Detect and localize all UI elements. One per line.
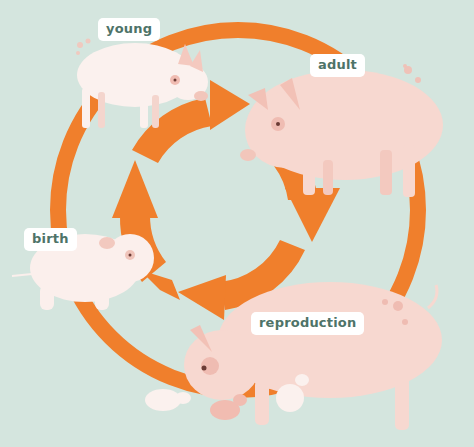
piglet-white-2 <box>276 384 304 412</box>
stage-label-young: young <box>98 18 160 41</box>
adult-pig-illustration <box>240 64 443 197</box>
sow-illustration <box>145 282 442 430</box>
stage-label-birth: birth <box>24 228 77 251</box>
arrowhead-up-icon <box>112 160 158 218</box>
arrowhead-right-icon <box>210 80 250 130</box>
diagram-canvas <box>0 0 474 447</box>
pig-life-cycle-diagram: young adult reproduction birth <box>0 0 474 447</box>
stage-label-adult: adult <box>310 54 365 77</box>
stage-label-reproduction: reproduction <box>251 312 364 335</box>
arrowhead-down-icon <box>285 188 340 242</box>
arrowhead-left-icon <box>178 275 226 320</box>
